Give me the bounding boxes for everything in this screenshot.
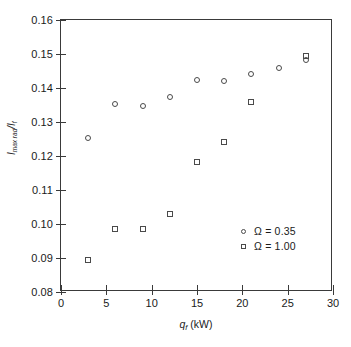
data-point-square bbox=[248, 99, 254, 105]
legend-marker-circle-icon bbox=[232, 229, 254, 234]
legend-label: Ω = 0.35 bbox=[254, 224, 296, 239]
x-tick-mark bbox=[288, 290, 289, 295]
data-point-circle bbox=[276, 65, 282, 71]
x-tick-mark-inner bbox=[61, 285, 62, 290]
x-tick-label: 20 bbox=[236, 297, 248, 309]
x-tick-mark-inner bbox=[152, 285, 153, 290]
data-point-square bbox=[167, 211, 173, 217]
y-tick-label: 0.16 bbox=[31, 14, 53, 26]
y-tick-label: 0.10 bbox=[31, 218, 53, 230]
figure-container: Imax rad/If qf (kW) 0.160.150.140.130.12… bbox=[0, 0, 351, 347]
y-tick-mark-inner bbox=[61, 190, 66, 191]
x-tick-mark bbox=[333, 290, 334, 295]
data-point-square bbox=[112, 226, 118, 232]
x-tick-mark-inner bbox=[242, 285, 243, 290]
x-tick-mark-inner bbox=[288, 285, 289, 290]
x-tick-label: 25 bbox=[282, 297, 294, 309]
y-tick-mark-inner bbox=[61, 258, 66, 259]
data-point-square bbox=[194, 159, 200, 165]
legend-item: Ω = 1.00 bbox=[232, 239, 296, 254]
x-axis-title-unit: (kW) bbox=[187, 318, 212, 330]
x-tick-mark bbox=[106, 290, 107, 295]
y-tick-label: 0.09 bbox=[31, 252, 53, 264]
data-point-circle bbox=[221, 78, 227, 84]
y-tick-label: 0.13 bbox=[31, 116, 53, 128]
y-tick-mark-inner bbox=[61, 224, 66, 225]
y-tick-label: 0.12 bbox=[31, 150, 53, 162]
x-tick-label: 5 bbox=[103, 297, 109, 309]
y-tick-label: 0.08 bbox=[31, 286, 53, 298]
y-tick-mark-inner bbox=[61, 122, 66, 123]
data-point-circle bbox=[140, 103, 146, 109]
y-axis-title: Imax rad/If bbox=[6, 121, 18, 155]
data-point-circle bbox=[248, 71, 254, 77]
x-tick-mark bbox=[152, 290, 153, 295]
legend: Ω = 0.35Ω = 1.00 bbox=[232, 224, 296, 254]
legend-item: Ω = 0.35 bbox=[232, 224, 296, 239]
data-point-square bbox=[140, 226, 146, 232]
x-tick-mark bbox=[197, 290, 198, 295]
y-axis-title-subscript-2: f bbox=[11, 121, 18, 123]
y-axis-title-slash: /I bbox=[6, 123, 17, 129]
y-tick-label: 0.15 bbox=[31, 48, 53, 60]
x-axis-title: qf (kW) bbox=[179, 318, 212, 332]
x-tick-mark bbox=[61, 290, 62, 295]
data-point-square bbox=[85, 257, 91, 263]
y-tick-mark-inner bbox=[61, 54, 66, 55]
y-axis-title-subscript: max rad bbox=[11, 129, 18, 152]
x-tick-mark-inner bbox=[106, 285, 107, 290]
y-axis-title-symbol: I bbox=[6, 152, 17, 155]
x-tick-label: 30 bbox=[327, 297, 339, 309]
data-point-square bbox=[303, 53, 309, 59]
data-point-circle bbox=[85, 135, 91, 141]
x-tick-label: 10 bbox=[146, 297, 158, 309]
y-tick-label: 0.14 bbox=[31, 82, 53, 94]
data-point-square bbox=[221, 139, 227, 145]
x-tick-label: 0 bbox=[58, 297, 64, 309]
x-tick-mark bbox=[242, 290, 243, 295]
legend-marker-square-icon bbox=[232, 244, 254, 249]
square-icon bbox=[241, 244, 246, 249]
legend-label: Ω = 1.00 bbox=[254, 239, 296, 254]
x-tick-label: 15 bbox=[191, 297, 203, 309]
x-tick-mark-inner bbox=[197, 285, 198, 290]
y-tick-label: 0.11 bbox=[32, 184, 53, 196]
x-tick-mark-inner bbox=[333, 285, 334, 290]
y-tick-mark-inner bbox=[61, 20, 66, 21]
data-point-circle bbox=[167, 94, 173, 100]
y-tick-mark-inner bbox=[61, 88, 66, 89]
data-point-circle bbox=[112, 101, 118, 107]
circle-icon bbox=[241, 229, 246, 234]
y-tick-mark-inner bbox=[61, 156, 66, 157]
data-point-circle bbox=[194, 77, 200, 83]
